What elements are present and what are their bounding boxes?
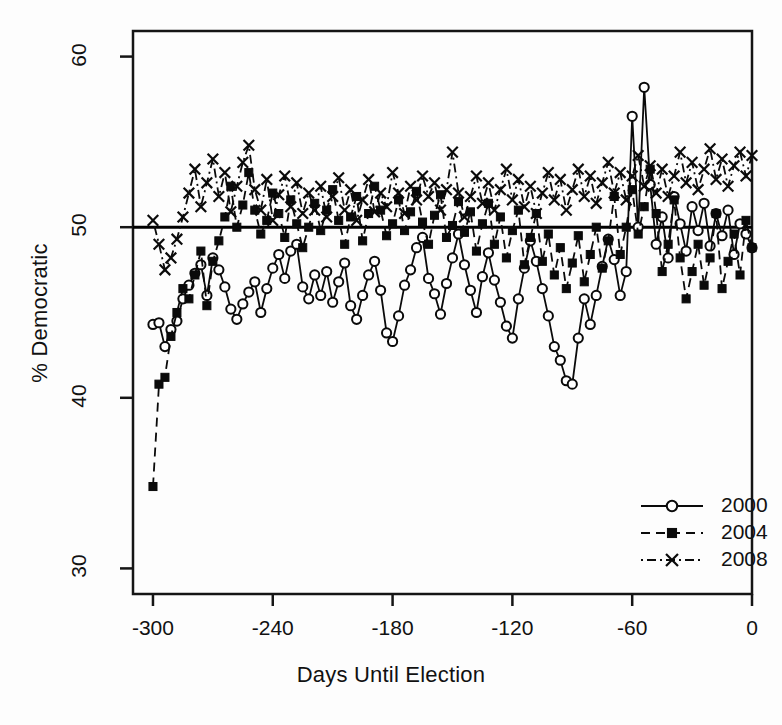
legend-marker-2004	[667, 528, 676, 537]
axis-ticks	[120, 57, 752, 606]
x-tick-label: -180	[372, 616, 414, 640]
y-axis-title: % Democratic	[27, 153, 53, 473]
legend-marker-2000	[667, 501, 677, 511]
y-tick-label: 60	[67, 31, 91, 79]
chart-figure: Days Until Election % Democratic -300-24…	[0, 0, 782, 725]
y-tick-label: 50	[67, 201, 91, 249]
x-tick-label: -300	[132, 616, 174, 640]
data-series-group	[148, 83, 758, 491]
x-tick-label: -120	[491, 616, 533, 640]
y-tick-label: 40	[67, 372, 91, 420]
legend-item-2000: 2000	[721, 493, 768, 517]
legend-samples	[641, 501, 703, 566]
legend-item-2004: 2004	[721, 520, 768, 544]
legend-item-2008: 2008	[721, 547, 768, 571]
x-tick-label: -240	[252, 616, 294, 640]
x-axis-title: Days Until Election	[0, 662, 782, 688]
x-tick-label: 0	[746, 616, 758, 640]
y-tick-label: 30	[67, 542, 91, 590]
series-line-2000	[153, 87, 752, 384]
x-tick-label: -60	[617, 616, 647, 640]
